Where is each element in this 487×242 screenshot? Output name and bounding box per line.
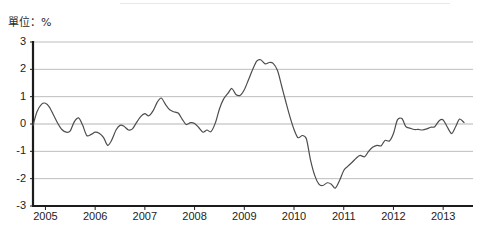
y-tick-label: 3 bbox=[4, 35, 26, 47]
chart-container: 單位：% 3210-1-2-3 200520062007200820092010… bbox=[0, 0, 487, 242]
x-tick-label: 2007 bbox=[123, 210, 167, 222]
x-tick-label: 2010 bbox=[272, 210, 316, 222]
line-chart-plot bbox=[0, 0, 487, 242]
y-tick-label: -2 bbox=[4, 172, 26, 184]
gridlines-group bbox=[33, 42, 473, 179]
x-tick-label: 2011 bbox=[322, 210, 366, 222]
x-tick-label: 2009 bbox=[222, 210, 266, 222]
x-tick-label: 2008 bbox=[173, 210, 217, 222]
x-tick-label: 2006 bbox=[73, 210, 117, 222]
y-tick-label: 2 bbox=[4, 62, 26, 74]
x-tick-label: 2005 bbox=[23, 210, 67, 222]
x-tick-label: 2012 bbox=[371, 210, 415, 222]
y-tick-label: 0 bbox=[4, 117, 26, 129]
y-tick-label: -1 bbox=[4, 144, 26, 156]
y-tick-label: 1 bbox=[4, 90, 26, 102]
x-tick-label: 2013 bbox=[421, 210, 465, 222]
